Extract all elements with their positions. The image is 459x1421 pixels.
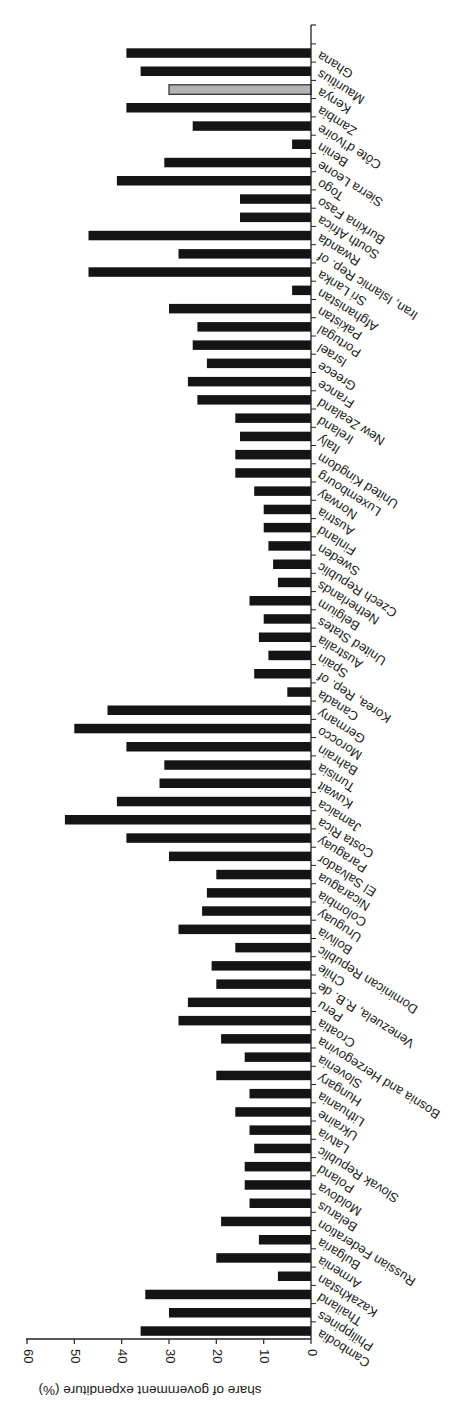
bar-lithuania [250, 1089, 312, 1099]
bar-costa-rica [65, 815, 311, 825]
value-tick-label: 60 [21, 1349, 36, 1363]
bar-netherlands [278, 578, 311, 588]
bar-jamaica [117, 797, 311, 807]
bar-canada [287, 687, 311, 697]
bar-kuwait [160, 779, 312, 789]
bar-cambodia [141, 1326, 311, 1336]
bar-philippines [169, 1308, 311, 1318]
value-tick-label: 40 [115, 1349, 130, 1363]
bar-ukraine [235, 1107, 311, 1117]
bar-ireland [235, 413, 311, 423]
bar-rwanda [89, 231, 312, 241]
bar-iran-islamic-rep-of [179, 249, 312, 259]
bar-chile [212, 961, 311, 971]
bar-finland [264, 523, 311, 533]
bar-hungary [216, 1071, 311, 1081]
bar-spain [268, 651, 311, 661]
bar-korea-rep-of [254, 669, 311, 679]
bar-zambia [126, 103, 311, 113]
bar-paraguay [126, 833, 311, 843]
bar-croatia [179, 1016, 312, 1026]
bar-sweden [268, 541, 311, 551]
value-tick-label: 30 [163, 1349, 178, 1363]
bar-austria [264, 505, 311, 515]
category-axis: CambodiaPhilippinesThailandKazakhstanArm… [311, 25, 443, 1371]
bar-moldova [245, 1180, 311, 1190]
bar-france [188, 377, 311, 387]
bar-venezuela-r-b-de [216, 979, 311, 989]
bar-afghanistan [292, 286, 311, 296]
bar-thailand [145, 1290, 311, 1300]
bar-togo [117, 176, 311, 186]
bar-sri-lanka [89, 267, 312, 277]
bar-benin [292, 140, 311, 150]
bar-colombia [207, 888, 311, 898]
bar-slovenia [245, 1052, 311, 1062]
bar-italy [240, 432, 311, 442]
bar-new-zealand [197, 395, 311, 405]
bar-nicaragua [216, 870, 311, 880]
bar-mauritius [141, 67, 311, 77]
bar-bosnia-and-herzegovina [221, 1034, 311, 1044]
bar-slovak-republic [254, 1144, 311, 1154]
bar-c-te-d-ivoire [193, 121, 311, 131]
bar-kenya [169, 85, 311, 95]
bar-bolivia [179, 925, 312, 935]
value-tick-label: 10 [257, 1349, 272, 1363]
bar-israel [193, 340, 311, 350]
bar-united-states [264, 614, 311, 624]
bar-dominican-republic [235, 943, 311, 953]
bar-luxembourg [235, 468, 311, 478]
bar-poland [245, 1162, 311, 1172]
bar-south-africa [240, 213, 311, 223]
bar-russian-federation [221, 1217, 311, 1227]
value-tick-label: 20 [210, 1349, 225, 1363]
bar-uruguay [202, 906, 311, 916]
bar-pakistan [169, 304, 311, 314]
bar-peru [188, 998, 311, 1008]
bar-latvia [250, 1125, 312, 1135]
bar-czech-republic [273, 560, 311, 570]
bar-germany [108, 706, 312, 716]
value-axis: 0102030405060 [21, 1339, 320, 1363]
value-tick-label: 0 [305, 1349, 320, 1356]
bar-portugal [197, 322, 311, 332]
bar-bulgaria [259, 1235, 311, 1245]
bar-australia [259, 633, 311, 643]
bar-belgium [250, 596, 312, 606]
value-axis-title: share of government expenditure (%) [39, 1383, 262, 1398]
bar-el-salvador [169, 852, 311, 862]
bar-belarus [250, 1199, 312, 1209]
bar-kazakhstan [278, 1272, 311, 1282]
bars-group [65, 48, 311, 1336]
bar-burkina-faso [240, 194, 311, 204]
bar-greece [207, 359, 311, 369]
bar-norway [254, 486, 311, 496]
bar-united-kingdom [235, 450, 311, 460]
bar-bahrain [126, 742, 311, 752]
bar-sierra-leone [164, 158, 311, 168]
bar-chart: CambodiaPhilippinesThailandKazakhstanArm… [0, 0, 459, 1421]
bar-ghana [126, 48, 311, 58]
value-tick-label: 50 [68, 1349, 83, 1363]
bar-tunisia [164, 760, 311, 770]
bar-morocco [74, 724, 311, 734]
bar-armenia [216, 1253, 311, 1263]
